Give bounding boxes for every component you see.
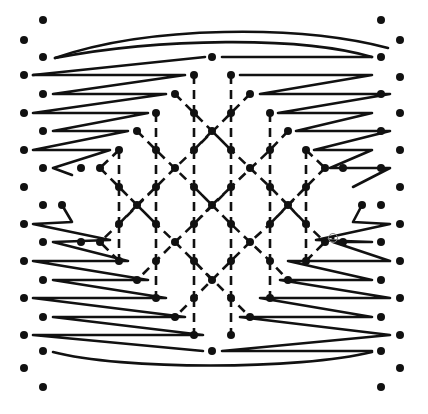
right-zigzag-threads xyxy=(222,75,390,351)
lace-pricking-diagram xyxy=(0,0,428,414)
left-zigzag-threads xyxy=(33,75,372,366)
